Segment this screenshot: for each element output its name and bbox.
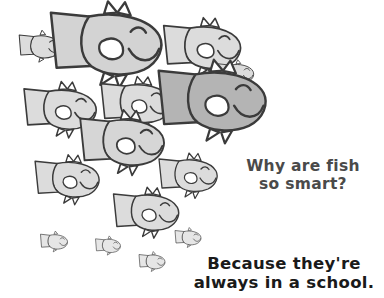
- joke-punchline-text: Because they're always in a school.: [186, 254, 382, 293]
- joke-question-text: Why are fish so smart?: [228, 157, 378, 194]
